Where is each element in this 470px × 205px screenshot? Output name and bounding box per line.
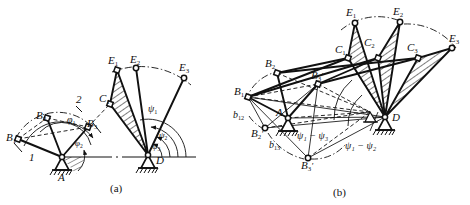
label-link-1: 1 xyxy=(29,152,35,163)
label-e2-b: E2 xyxy=(393,6,403,17)
label-c1-b: C1 xyxy=(335,44,346,55)
label-b12-pole: b12 xyxy=(233,110,244,120)
linkage-diagram-svg xyxy=(0,0,470,205)
label-b2-b: B2 xyxy=(265,58,275,69)
label-phi1-a: φ1 xyxy=(67,115,76,125)
label-e2-a: E2 xyxy=(130,54,140,65)
caption-a: (a) xyxy=(110,182,122,194)
label-c2-b: C2 xyxy=(364,37,375,48)
label-e1-b: E1 xyxy=(346,7,356,18)
label-psi1-minus-psi3: ψ₁ − ψ₃ xyxy=(297,131,328,141)
caption-b: (b) xyxy=(333,186,346,198)
label-c1-a: C1 xyxy=(99,93,110,104)
label-e3-b: E3 xyxy=(449,33,459,44)
label-b2-prime-b: B2′ xyxy=(251,128,263,139)
label-e3-a: E3 xyxy=(179,62,189,73)
label-pivot-a-b: A xyxy=(276,107,283,118)
label-b3-prime-b: B3′ xyxy=(311,70,323,81)
label-pivot-d-b: D xyxy=(392,112,400,123)
label-pivot-a-a: A xyxy=(58,172,65,183)
label-b1-b: B1 xyxy=(234,86,244,97)
figure-canvas: B1 B2 B3 C1 E1 E2 E3 A D 1 2 φ1 φ2 ψ1 ψ2… xyxy=(0,0,470,205)
label-psi3-a: ψ3 xyxy=(152,142,160,151)
label-b1-a: B1 xyxy=(6,132,16,143)
label-b3p-b: B3′ xyxy=(301,160,313,171)
label-e1-a: E1 xyxy=(108,55,118,66)
label-link-2: 2 xyxy=(76,94,82,105)
label-phi2-a: φ2 xyxy=(75,139,83,148)
label-b13-pole: b13 xyxy=(269,140,280,150)
label-psi1-minus-psi2: ψ₁ − ψ₂ xyxy=(345,141,376,151)
label-psi1-a: ψ1 xyxy=(148,104,157,114)
label-b3-a: B3 xyxy=(87,118,97,129)
label-b2-a: B2 xyxy=(36,110,46,121)
fixed-pivot-D xyxy=(136,152,158,173)
label-pivot-d-a: D xyxy=(156,155,164,166)
label-psi2-a: ψ2 xyxy=(159,131,167,140)
label-c3-b: C3 xyxy=(407,42,418,53)
